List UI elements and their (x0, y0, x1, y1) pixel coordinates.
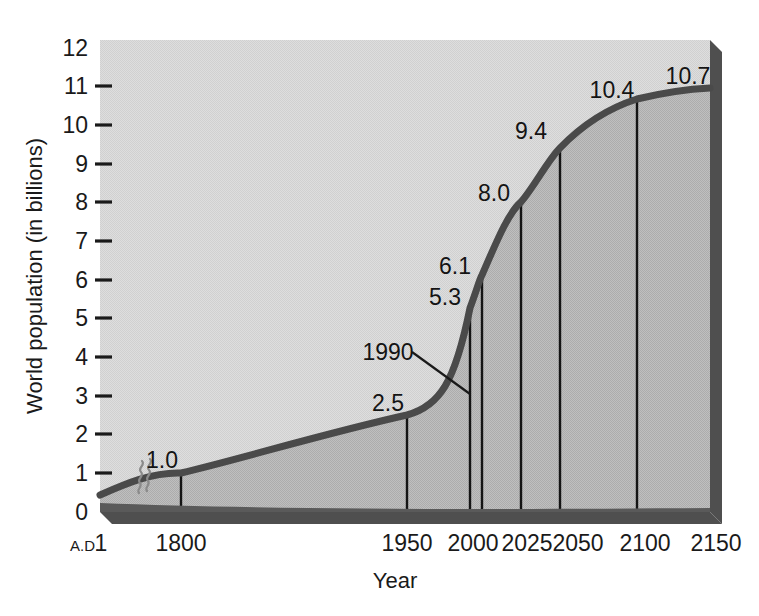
plot-right-shadow (710, 40, 722, 524)
chart-svg: 12 11 10 9 8 7 6 5 4 3 2 1 0 A.D. 1 1800… (0, 0, 759, 616)
data-label-5-3: 5.3 (429, 284, 461, 310)
x-axis-label-1800: 1800 (155, 530, 206, 556)
y-axis-label-0: 0 (75, 499, 88, 525)
y-axis-title: World population (in billions) (22, 138, 47, 414)
x-axis-label-1950: 1950 (381, 530, 432, 556)
data-label-2-5: 2.5 (372, 390, 404, 416)
x-axis-label-2000: 2000 (447, 530, 498, 556)
data-label-1990: 1990 (362, 339, 413, 365)
x-axis-label-2025: 2025 (501, 530, 552, 556)
y-axis-label-8: 8 (75, 189, 88, 215)
plot-bottom-shadow (100, 512, 722, 524)
x-axis-label-1: 1 (95, 530, 108, 556)
x-axis-label-2150: 2150 (690, 530, 741, 556)
y-axis-label-4: 4 (75, 344, 88, 370)
x-axis-label-2050: 2050 (552, 530, 603, 556)
data-label-10-7: 10.7 (666, 63, 711, 89)
data-label-10-4: 10.4 (590, 77, 635, 103)
y-axis-label-10: 10 (62, 112, 88, 138)
y-axis-label-2: 2 (75, 421, 88, 447)
y-axis-label-1: 1 (75, 460, 88, 486)
data-label-9-4: 9.4 (515, 118, 547, 144)
y-axis-label-3: 3 (75, 383, 88, 409)
y-axis-label-11: 11 (64, 73, 88, 99)
y-axis-label-5: 5 (75, 305, 88, 331)
data-label-1-0: 1.0 (146, 447, 178, 473)
y-axis-label-9: 9 (75, 151, 88, 177)
y-axis-label-7: 7 (75, 228, 88, 254)
data-label-6-1: 6.1 (439, 253, 471, 279)
x-axis-title: Year (373, 568, 417, 593)
y-axis-label-6: 6 (75, 267, 88, 293)
x-axis-label-2100: 2100 (619, 530, 670, 556)
y-axis-label-12: 12 (62, 35, 88, 61)
population-growth-chart: 12 11 10 9 8 7 6 5 4 3 2 1 0 A.D. 1 1800… (0, 0, 759, 616)
data-label-8-0: 8.0 (478, 180, 510, 206)
